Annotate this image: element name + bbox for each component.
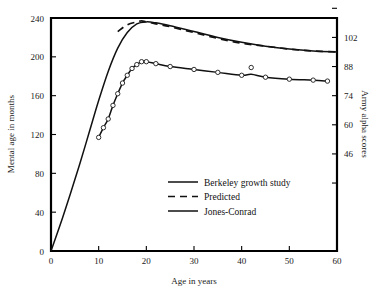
y-axis-title: Mental age in months (6, 94, 16, 173)
x-tick-label: 0 (49, 256, 54, 266)
data-point-marker (130, 66, 134, 70)
data-point-marker (116, 92, 120, 96)
data-point-marker (168, 64, 172, 68)
legend-label-1: Predicted (204, 192, 240, 202)
y2-tick-label: 60 (344, 120, 354, 130)
data-point-marker (216, 70, 220, 74)
data-point-marker (101, 126, 105, 130)
y2-tick-label: 74 (344, 91, 354, 101)
data-point-marker (111, 103, 115, 107)
data-point-marker (139, 59, 143, 63)
x-tick-label: 40 (237, 256, 247, 266)
data-point-marker (120, 81, 124, 85)
data-point-marker (135, 62, 139, 66)
y2-tick-label: 88 (344, 62, 354, 72)
data-point-marker (96, 135, 100, 139)
legend-label-0: Berkeley growth study (204, 178, 291, 188)
data-point-marker (192, 67, 196, 71)
x-tick-label: 30 (190, 256, 200, 266)
x-tick-label: 10 (94, 256, 104, 266)
y2-tick-label: 102 (344, 33, 358, 43)
y-tick-label: 200 (31, 52, 45, 62)
data-point-marker (263, 75, 267, 79)
y-tick-label: 40 (35, 208, 45, 218)
data-point-marker (287, 77, 291, 81)
y2-tick-label: 46 (344, 149, 354, 159)
chart-background (0, 0, 373, 289)
data-point-marker (106, 117, 110, 121)
data-point-marker (144, 59, 148, 63)
data-point-marker (311, 78, 315, 82)
y2-axis-title: Army alpha scores (360, 90, 370, 158)
y-tick-label: 240 (31, 14, 45, 24)
data-point-marker (125, 73, 129, 77)
data-point-marker (249, 65, 253, 69)
data-point-marker (154, 61, 158, 65)
chart-figure: 0102030405060 04080120160200240 46607488… (0, 0, 373, 289)
data-point-marker (239, 73, 243, 77)
x-tick-label: 50 (285, 256, 295, 266)
x-tick-label: 20 (142, 256, 152, 266)
x-axis-title: Age in years (171, 276, 217, 286)
x-tick-label: 60 (333, 256, 343, 266)
y-tick-label: 120 (31, 130, 45, 140)
y-tick-label: 80 (35, 169, 45, 179)
y-tick-label: 0 (40, 247, 45, 257)
data-point-marker (325, 79, 329, 83)
y-tick-label: 160 (31, 91, 45, 101)
legend-label-2: Jones-Conrad (204, 207, 256, 217)
